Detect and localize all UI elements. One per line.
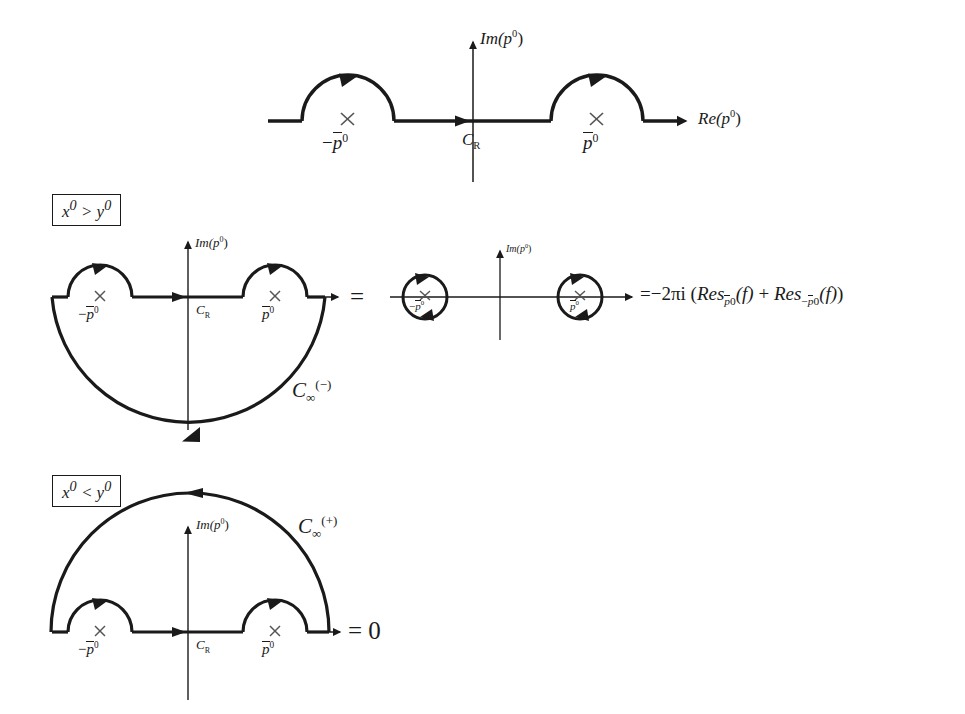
panel-top-flow-arrow xyxy=(455,116,470,127)
panel-bottom-im-axis-label: Im(p0) xyxy=(196,518,229,531)
panel-mid-left-im-axis-label: Im(p0) xyxy=(195,236,228,249)
panel-mid-right-graphics xyxy=(390,251,632,340)
panel-mid-right-im-axis-label: Im(p0) xyxy=(506,244,531,254)
panel-top-pole-right-label: p0 xyxy=(583,132,598,152)
panel-mid-right-pole-right-label: p0 xyxy=(570,300,579,312)
panel-mid-left-contour-cr-label: CR xyxy=(196,303,210,316)
residue-equation: =−2πi (Resp0(f) + Res−p0(f)) xyxy=(640,283,843,307)
panel-mid-right-pole-left-label: −p0 xyxy=(409,300,424,312)
panel-top-contour-cr-label: CR xyxy=(462,131,480,148)
panel-bottom-pole-left-cross xyxy=(95,626,105,636)
panel-top-im-axis-label: Im(p0) xyxy=(480,30,523,47)
figure-root: Im(p0) Re(p0) CR −p0 p0 x0 > y0 Im(p0) C… xyxy=(0,0,965,714)
panel-mid-left-pole-right-label: p0 xyxy=(262,306,274,322)
panel-top-pole-left-label: −p0 xyxy=(322,132,348,152)
panel-bottom-pole-right-cross xyxy=(270,626,280,636)
diagram-canvas xyxy=(0,0,965,714)
panel-top-graphics xyxy=(268,42,686,182)
panel-bottom-c-infinity-plus-label: C∞(+) xyxy=(298,516,337,537)
panel-bottom-condition-box: x0 < y0 xyxy=(52,475,121,507)
panel-top-pole-right-cross xyxy=(590,113,603,125)
panel-bottom-pole-left-label: −p0 xyxy=(78,641,99,657)
panel-bottom-big-arc-arrowhead xyxy=(184,488,203,498)
panel-mid-equals-sign: = xyxy=(350,283,364,311)
panel-top-re-axis-label: Re(p0) xyxy=(698,110,741,127)
panel-bottom-contour-cr-label: CR xyxy=(196,638,210,651)
panel-mid-left-big-arc-arrowhead xyxy=(182,427,200,442)
panel-bottom-big-arc-upper xyxy=(51,493,329,632)
panel-bottom-result-equals-zero: = 0 xyxy=(348,617,381,645)
panel-mid-left-condition-box: x0 > y0 xyxy=(52,194,121,226)
panel-bottom-flow-arrow xyxy=(172,627,186,637)
panel-top-pole-left-cross xyxy=(341,113,354,125)
panel-mid-left-c-infinity-minus-label: C∞(−) xyxy=(292,380,331,401)
panel-bottom-pole-right-label: p0 xyxy=(262,641,274,657)
panel-mid-left-pole-left-cross xyxy=(95,291,105,301)
panel-mid-left-pole-left-label: −p0 xyxy=(78,306,99,322)
panel-mid-left-graphics xyxy=(52,242,338,442)
panel-mid-left-pole-right-cross xyxy=(270,291,280,301)
panel-mid-left-flow-arrow xyxy=(172,292,186,302)
